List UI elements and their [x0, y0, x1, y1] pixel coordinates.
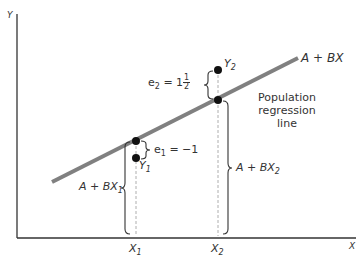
brace-error-1	[141, 141, 150, 159]
brace-fitted-2	[223, 101, 232, 234]
x-axis-label: X	[349, 242, 355, 251]
fitted-value-2-label: A + BX2	[236, 162, 280, 176]
observed-point-y2	[214, 66, 222, 74]
brace-error-2	[204, 71, 213, 99]
y2-label: Y2	[224, 58, 236, 72]
fitted-value-1-label: A + BX1	[79, 181, 123, 195]
y-axis-label: Y	[7, 11, 13, 20]
x2-tick-label: X2	[211, 243, 224, 257]
fitted-point-2	[214, 96, 222, 104]
y1-label: Y1	[139, 160, 151, 174]
error-1-label: e1 = −1	[154, 144, 198, 158]
fitted-point-1	[132, 137, 140, 145]
population-regression-line-label: Population regression line	[255, 91, 319, 130]
regression-diagram	[0, 0, 363, 265]
x1-tick-label: X1	[129, 243, 142, 257]
error-2-label: e2 = 112	[148, 74, 190, 91]
line-equation-label: A + BX	[301, 52, 343, 64]
